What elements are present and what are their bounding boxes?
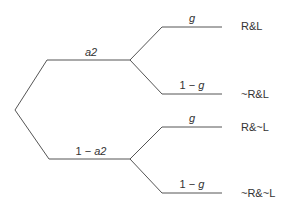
label-lower-branch: 1 − a2: [76, 146, 107, 157]
outcome-r-and-l: R&L: [241, 21, 262, 32]
branch-upper-g: [130, 27, 222, 60]
branch-upper: [15, 60, 130, 110]
outcome-r-and-not-l: R&~L: [241, 122, 269, 133]
label-sub-branch-4: 1 − g: [180, 179, 205, 190]
label-sub-branch-1: g: [189, 13, 195, 24]
label-sub-branch-3: g: [189, 113, 195, 124]
var-a2: a2: [94, 145, 106, 157]
outcome-not-r-and-not-l: ~R&~L: [241, 188, 275, 199]
branch-lower-g: [130, 127, 222, 159]
outcome-not-r-and-l: ~R&L: [241, 89, 269, 100]
label-upper-branch: a2: [85, 47, 97, 58]
branch-lower: [15, 110, 130, 159]
label-sub-branch-2: 1 − g: [180, 80, 205, 91]
branch-upper-1-g: [130, 60, 222, 94]
var-a2: a2: [85, 46, 97, 58]
branch-lower-1-g: [130, 159, 222, 193]
